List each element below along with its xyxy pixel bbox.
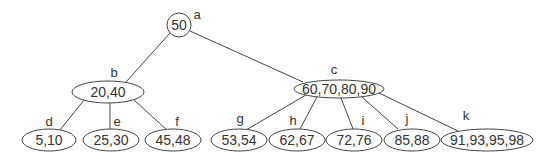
- tree-node-b: 20,40b: [72, 65, 144, 104]
- node-keys-e: 25,30: [93, 132, 128, 148]
- tree-node-c: 60,70,80,90c: [294, 62, 384, 99]
- edge-c-k: [379, 93, 458, 131]
- tree-node-j: 85,88j: [384, 111, 440, 152]
- edge-c-g: [246, 95, 306, 130]
- edge-a-b: [126, 33, 170, 82]
- node-keys-h: 62,67: [279, 132, 314, 148]
- node-label-i: i: [362, 113, 365, 128]
- edge-c-i: [341, 98, 353, 129]
- node-keys-i: 72,76: [336, 132, 371, 148]
- tree-node-i: 72,76i: [326, 113, 382, 152]
- node-label-d: d: [45, 114, 52, 129]
- node-label-j: j: [405, 111, 409, 126]
- tree-node-f: 45,48f: [145, 114, 201, 152]
- node-label-h: h: [289, 113, 296, 128]
- node-label-a: a: [193, 7, 201, 22]
- node-keys-c: 60,70,80,90: [302, 81, 376, 97]
- node-label-b: b: [110, 65, 117, 80]
- edge-a-c: [190, 31, 303, 82]
- node-keys-j: 85,88: [394, 132, 429, 148]
- node-label-c: c: [331, 62, 338, 77]
- node-keys-a: 50: [171, 17, 187, 33]
- node-keys-f: 45,48: [155, 132, 190, 148]
- edge-b-f: [134, 100, 167, 130]
- node-keys-d: 5,10: [35, 132, 62, 148]
- edge-c-j: [362, 97, 398, 129]
- node-label-g: g: [236, 111, 243, 126]
- node-keys-k: 91,93,95,98: [450, 132, 524, 148]
- node-keys-b: 20,40: [90, 84, 125, 100]
- tree-node-e: 25,30e: [83, 114, 139, 152]
- tree-node-h: 62,67h: [269, 113, 325, 152]
- node-label-k: k: [463, 108, 470, 123]
- b-tree-diagram: 50a20,40b60,70,80,90c5,10d25,30e45,48f53…: [0, 0, 557, 159]
- edge-c-h: [300, 97, 317, 129]
- edge-b-d: [60, 100, 84, 130]
- node-label-e: e: [113, 114, 120, 129]
- tree-nodes: 50a20,40b60,70,80,90c5,10d25,30e45,48f53…: [22, 7, 533, 152]
- tree-node-a: 50a: [167, 7, 201, 38]
- tree-node-g: 53,54g: [211, 111, 267, 152]
- node-keys-g: 53,54: [221, 132, 256, 148]
- tree-node-d: 5,10d: [22, 114, 76, 152]
- node-label-f: f: [175, 114, 179, 129]
